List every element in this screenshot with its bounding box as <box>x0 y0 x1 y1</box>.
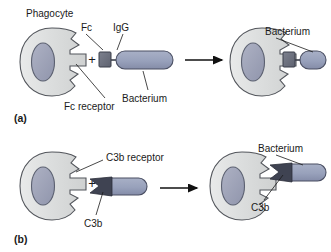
panel-label-b: (b) <box>14 233 27 245</box>
phagocyte-left-b <box>20 152 86 220</box>
leader-line-fc-receptor <box>76 64 105 98</box>
panel-a: + <box>14 8 326 124</box>
bacterium-rod-right-a <box>300 51 326 69</box>
label-bacterium-right-b: Bacterium <box>258 143 303 154</box>
opsonized-bacterium-left-a <box>99 51 173 69</box>
label-bacterium-left-a: Bacterium <box>122 93 167 104</box>
leader-line-igg <box>117 34 123 50</box>
label-fc-receptor: Fc receptor <box>64 101 115 112</box>
leader-line-fc <box>86 34 103 50</box>
panel-label-a: (a) <box>14 112 27 124</box>
leader-line-c3b-left <box>96 192 103 215</box>
panel-b: + C3b receptor <box>14 143 326 245</box>
bound-complex-right-a <box>283 51 326 69</box>
bacterium-rod-left-a <box>116 51 173 69</box>
label-bacterium-right-a: Bacterium <box>265 26 310 37</box>
bound-complex-right-b <box>270 163 326 182</box>
phagocyte-nucleus <box>222 167 245 205</box>
fc-fragment <box>99 52 111 67</box>
plus-sign-a: + <box>88 52 96 67</box>
opsonization-diagram: + <box>0 0 331 252</box>
fc-fragment-bound <box>283 52 295 67</box>
opsonized-bacterium-left-b <box>90 177 147 196</box>
phagocyte-left-a <box>20 28 86 96</box>
phagocyte-nucleus <box>32 167 55 205</box>
label-c3b-right: C3b <box>251 202 270 213</box>
label-c3b-left: C3b <box>84 218 103 229</box>
label-fc: Fc <box>81 22 92 33</box>
phagocyte-nucleus <box>242 43 265 81</box>
leader-line-c3b-receptor <box>76 160 103 172</box>
leader-line-bacterium-left <box>143 71 148 90</box>
label-igg: IgG <box>113 22 129 33</box>
label-c3b-receptor: C3b receptor <box>106 152 164 163</box>
label-phagocyte: Phagocyte <box>26 8 74 19</box>
phagocyte-nucleus <box>32 43 55 81</box>
c3b-fragment-right <box>270 163 292 182</box>
